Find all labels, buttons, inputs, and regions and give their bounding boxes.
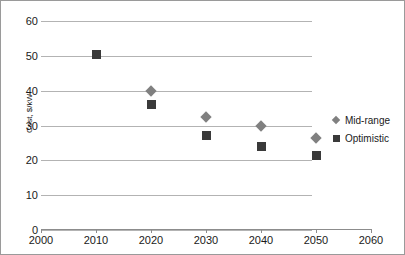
y-axis-tick-label: 20 [4, 155, 38, 166]
chart-legend: Mid-rangeOptimistic [329, 111, 403, 147]
x-axis-tick-label: 2060 [349, 235, 393, 246]
gridline [41, 56, 312, 57]
x-axis-tick [41, 229, 42, 233]
y-axis-tick-label: 50 [4, 51, 38, 62]
gridline [41, 230, 312, 231]
x-axis-tick [151, 229, 152, 233]
x-axis-tick [206, 229, 207, 233]
legend-item-label: Optimistic [343, 133, 389, 144]
data-point-marker [200, 111, 211, 122]
y-axis-tick-label: 10 [4, 190, 38, 201]
x-axis-tick-label: 2050 [294, 235, 338, 246]
legend-item-mid-range[interactable]: Mid-range [329, 111, 403, 129]
gridline [41, 91, 312, 92]
x-axis-tick-label: 2040 [239, 235, 283, 246]
diamond-marker-icon [329, 117, 343, 123]
square-marker-icon [329, 135, 343, 142]
data-point-marker [312, 151, 321, 160]
gridline [41, 160, 312, 161]
plot-area [41, 21, 312, 230]
x-axis-tick-label: 2030 [184, 235, 228, 246]
x-axis-tick [96, 229, 97, 233]
x-axis-tick [316, 229, 317, 233]
gridline [41, 21, 312, 22]
y-axis-tick-label: 60 [4, 16, 38, 27]
data-point-marker [255, 120, 266, 131]
chart-frame: 0102030405060 Cost, $/kW Mid-rangeOptimi… [0, 0, 405, 255]
data-point-marker [257, 142, 266, 151]
legend-item-label: Mid-range [343, 115, 390, 126]
gridline [41, 195, 312, 196]
data-point-marker [310, 132, 321, 143]
x-axis-tick [371, 229, 372, 233]
data-point-marker [145, 85, 156, 96]
x-axis-tick [261, 229, 262, 233]
x-axis-tick-label: 2010 [74, 235, 118, 246]
x-axis-tick-label: 2000 [19, 235, 63, 246]
data-point-marker [202, 131, 211, 140]
legend-item-optimistic[interactable]: Optimistic [329, 129, 403, 147]
x-axis-tick-label: 2020 [129, 235, 173, 246]
data-point-marker [92, 50, 101, 59]
data-point-marker [147, 100, 156, 109]
y-axis-title: Cost, $/kW [25, 74, 34, 154]
gridline [41, 126, 312, 127]
